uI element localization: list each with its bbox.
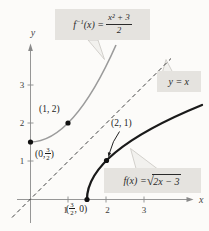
- point-dot-2-1: [104, 158, 109, 163]
- inverse-formula-fraction: x² + 32: [106, 13, 132, 36]
- y-axis-label: y: [30, 27, 36, 38]
- callout-pointer-function: [131, 149, 158, 169]
- point-dot-0-1p5: [28, 139, 33, 144]
- inverse-formula-arg: (x) =: [84, 19, 104, 30]
- point-label-close: , 0): [75, 204, 88, 214]
- fraction-numerator: x² + 3: [106, 13, 132, 25]
- y-tick-label-2: 2: [20, 118, 25, 128]
- point-label-1-2-text: (1, 2): [39, 104, 60, 114]
- inverse-formula-exponent: −1: [76, 18, 84, 25]
- point-label-open: (0,: [35, 149, 45, 159]
- fraction-denominator: 2: [117, 25, 122, 36]
- y-tick-label-1: 1: [20, 156, 25, 166]
- x-tick-label-3: 3: [142, 205, 147, 215]
- x-tick-label-2: 2: [105, 205, 110, 215]
- point-label-3halves-0: (32, 0): [66, 201, 87, 217]
- inverse-curve: [30, 45, 116, 142]
- inverse-formula-box: f−1(x) = x² + 32: [55, 9, 150, 40]
- point-label-1-2: (1, 2): [39, 104, 60, 114]
- y-tick-label-3: 3: [20, 80, 25, 90]
- identity-line: [12, 59, 171, 218]
- point-label-0-3halves: (0, 32): [35, 146, 54, 162]
- point-label-close: ): [51, 149, 54, 159]
- function-formula-prefix: f(x) =: [124, 175, 147, 186]
- point-label-2-1: (2, 1): [111, 118, 132, 128]
- y-axis-arrowhead: [28, 44, 33, 52]
- identity-line-box: y = x: [157, 71, 201, 92]
- small-fraction-denominator: 2: [46, 154, 49, 161]
- inverse-function-figure: 1 2 3 1 2 3 y x f−1(x) = x² + 32 y = x f…: [0, 0, 209, 231]
- x-axis-label: x: [198, 194, 204, 205]
- point-label-2-1-text: (2, 1): [111, 118, 132, 128]
- radicand: 2x − 3: [152, 174, 181, 187]
- small-fraction-denominator: 2: [70, 209, 73, 216]
- callout-pointer-inverse: [88, 40, 105, 60]
- point-dot-1-2: [65, 120, 70, 125]
- function-formula-box: f(x) = √2x − 3: [104, 168, 201, 193]
- identity-line-label: y = x: [168, 76, 189, 87]
- x-axis-arrowhead: [187, 197, 194, 202]
